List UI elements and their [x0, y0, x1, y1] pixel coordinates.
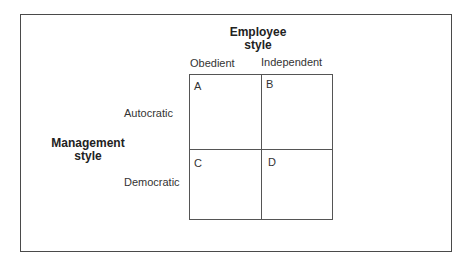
- row-axis-title: Management style: [48, 137, 128, 163]
- cell-d-label: D: [268, 156, 276, 168]
- cell-c-label: C: [194, 157, 202, 169]
- row-label-democratic: Democratic: [124, 176, 180, 188]
- column-axis-title: Employee style: [228, 26, 288, 52]
- column-label-obedient: Obedient: [190, 57, 235, 69]
- row-label-autocratic: Autocratic: [124, 107, 173, 119]
- grid-vertical-divider: [261, 75, 262, 219]
- quadrant-grid: A B C D: [189, 74, 333, 220]
- cell-a-label: A: [194, 80, 201, 92]
- row-axis-title-line-2: style: [48, 150, 128, 163]
- column-axis-title-line-2: style: [228, 39, 288, 52]
- column-label-independent: Independent: [261, 56, 322, 68]
- cell-b-label: B: [266, 78, 273, 90]
- grid-horizontal-divider: [190, 149, 332, 150]
